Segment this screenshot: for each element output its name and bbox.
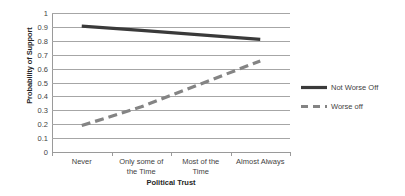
series-layer (52, 13, 290, 152)
x-tickmark (52, 152, 53, 156)
y-tick-label: 0.5 (26, 78, 48, 87)
y-tick-label: 0.1 (26, 134, 48, 143)
legend-entry[interactable]: Worse off (301, 97, 405, 116)
chart-container: Probability of Support 10.90.80.70.60.50… (0, 0, 405, 196)
y-tick-label: 0.2 (26, 120, 48, 129)
series-line-1 (82, 26, 261, 39)
y-tick-label: 0.3 (26, 106, 48, 115)
series-line-2 (82, 61, 261, 126)
y-tick-label: 0.6 (26, 64, 48, 73)
x-tick-label: Only some ofthe Time (108, 157, 174, 177)
x-tickmark (112, 152, 113, 156)
y-tick-label: 1 (26, 9, 48, 18)
x-tick-label: Almost Always (227, 157, 293, 167)
legend-entry[interactable]: Not Worse Off (301, 78, 405, 97)
y-tick-label: 0.9 (26, 22, 48, 31)
legend-swatch-icon (301, 82, 327, 93)
x-tickmark (290, 152, 291, 156)
x-tick-label: Never (49, 157, 115, 167)
x-tick-label: Most of theTime (168, 157, 234, 177)
x-tick-label-line: the Time (108, 167, 174, 177)
x-tick-label-line: Never (49, 157, 115, 167)
x-tickmark (171, 152, 172, 156)
y-tick-label: 0 (26, 148, 48, 157)
y-axis-tick-labels: 10.90.80.70.60.50.40.30.20.10 (26, 13, 48, 152)
y-tick-label: 0.7 (26, 50, 48, 59)
legend-label: Not Worse Off (331, 83, 378, 92)
plot-area (52, 13, 290, 152)
x-tick-label-line: Almost Always (227, 157, 293, 167)
y-tick-label: 0.4 (26, 92, 48, 101)
legend-label: Worse off (331, 102, 363, 111)
chart-legend: Not Worse OffWorse off (301, 78, 405, 116)
x-tick-label-line: Only some of (108, 157, 174, 167)
y-tick-label: 0.8 (26, 36, 48, 45)
legend-swatch-icon (301, 101, 327, 112)
x-tickmark (231, 152, 232, 156)
x-tick-label-line: Time (168, 167, 234, 177)
x-tick-label-line: Most of the (168, 157, 234, 167)
x-axis-title: Political Trust (52, 178, 290, 187)
